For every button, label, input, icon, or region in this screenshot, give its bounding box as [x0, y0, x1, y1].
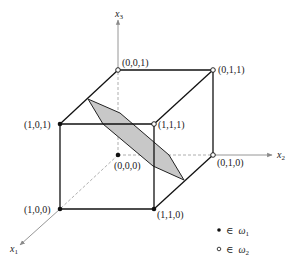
- vertex-100: [58, 207, 63, 212]
- vertex-000: [116, 153, 121, 158]
- x3-label: x3: [114, 8, 123, 21]
- legend-filled-marker: [217, 228, 221, 232]
- vertex-111: [152, 122, 157, 127]
- vertex-110: [152, 207, 157, 212]
- cube-diagram: (0,0,1) (0,1,1) (1,0,1) (1,1,1) (0,0,0) …: [0, 0, 296, 272]
- vertex-101: [58, 122, 63, 127]
- legend-omega1: ∈ω1: [226, 225, 249, 238]
- vertex-010: [211, 153, 216, 158]
- vertex-011: [211, 68, 216, 73]
- label-000: (0,0,0): [114, 160, 141, 172]
- label-111: (1,1,1): [158, 119, 185, 131]
- label-011: (0,1,1): [218, 64, 245, 76]
- x1-label: x1: [9, 243, 18, 256]
- label-101: (1,0,1): [24, 119, 51, 131]
- label-110: (1,1,0): [157, 209, 184, 221]
- legend: ∈ω1 ∈ω2: [217, 225, 249, 257]
- axis-labels: x3 x2 x1: [9, 8, 285, 256]
- label-001: (0,0,1): [122, 57, 149, 69]
- x2-label: x2: [276, 149, 285, 162]
- legend-open-marker: [217, 247, 221, 251]
- label-100: (1,0,0): [24, 204, 51, 216]
- legend-omega2: ∈ω2: [226, 244, 249, 257]
- label-010: (0,1,0): [217, 157, 244, 169]
- axes: [20, 20, 272, 245]
- edge-011-111: [154, 70, 213, 124]
- hidden-edge-000-100: [60, 155, 118, 209]
- vertex-001: [116, 68, 121, 73]
